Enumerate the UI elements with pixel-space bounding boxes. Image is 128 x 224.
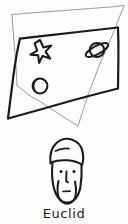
- chin-line: [61, 201, 74, 203]
- nose-icon: [66, 172, 68, 183]
- star-symbol: [30, 40, 51, 63]
- sketch-illustration: [0, 0, 128, 224]
- beanie-icon: [50, 139, 83, 165]
- eyes: [60, 170, 76, 173]
- front-plane: [8, 28, 118, 119]
- euclid-portrait: [50, 139, 83, 204]
- left-eye-icon: [60, 170, 63, 173]
- back-plane: [12, 6, 124, 127]
- moon-symbol: [33, 79, 48, 94]
- sketch-canvas: Euclid: [0, 0, 128, 224]
- right-eye-icon: [73, 170, 76, 173]
